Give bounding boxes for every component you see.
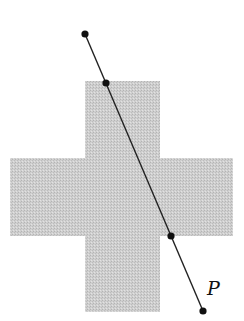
point-label-p: P <box>206 277 221 299</box>
endpoint-top <box>81 30 88 37</box>
intersection-point-lower <box>167 232 174 239</box>
endpoint-p <box>199 307 206 314</box>
cross-shape <box>10 81 233 312</box>
intersection-point-upper <box>102 79 109 86</box>
diagram-canvas: P <box>0 0 244 321</box>
